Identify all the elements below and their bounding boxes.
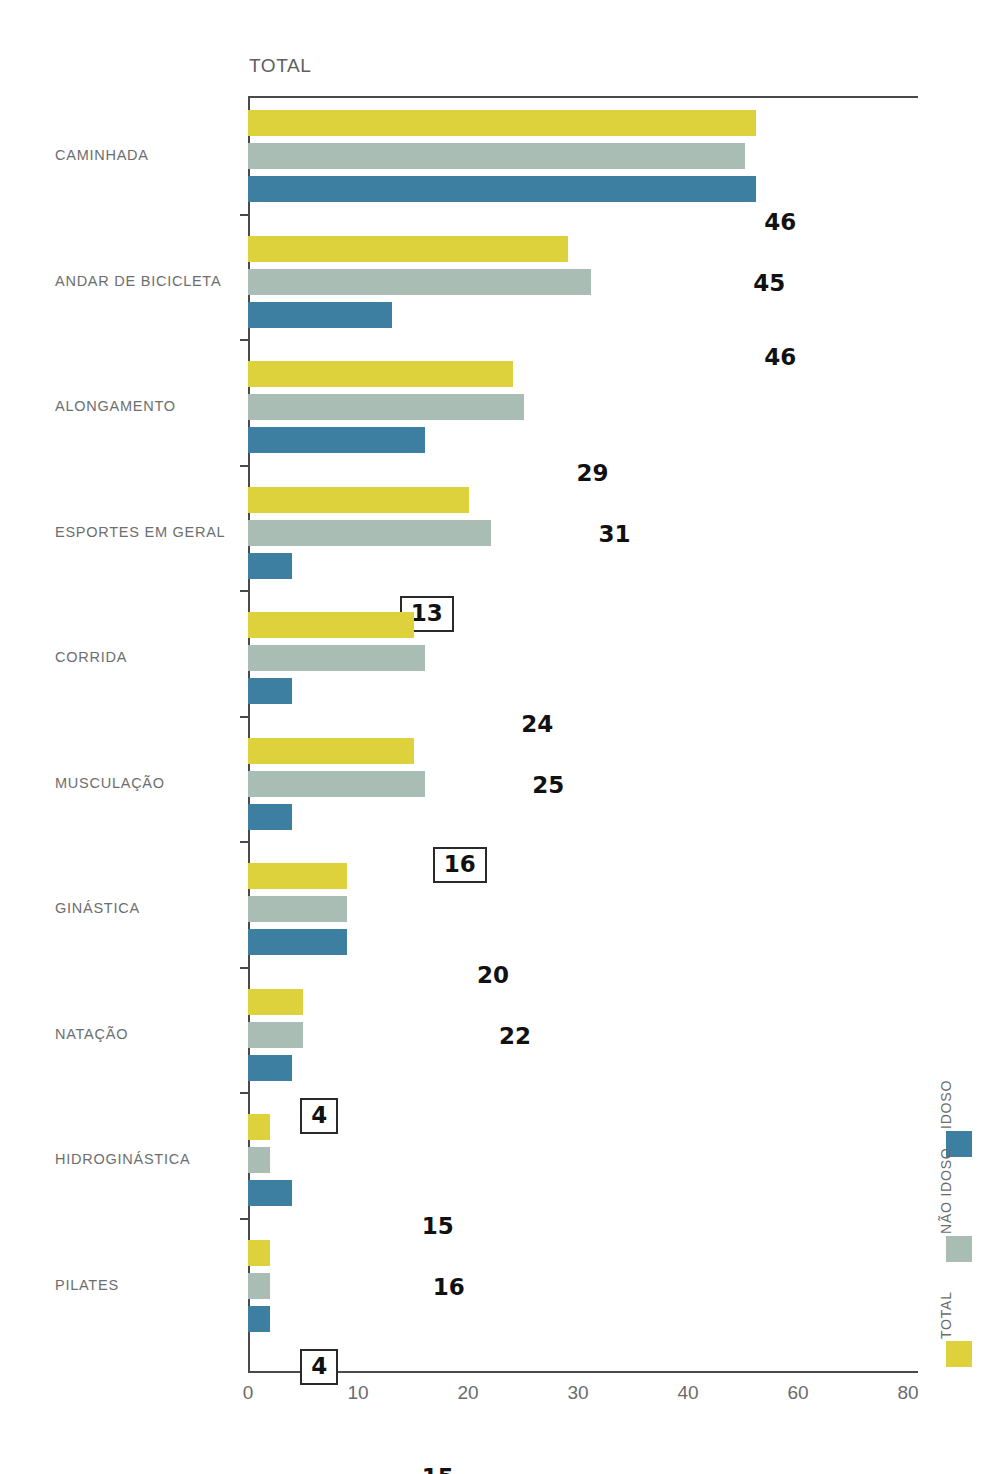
bar-chart: TOTAL CAMINHADAANDAR DE BICICLETAALONGAM… bbox=[0, 0, 988, 1474]
bar-value-label: 20 bbox=[477, 964, 509, 987]
bar-n-o-idoso bbox=[248, 143, 745, 169]
bar-value-label: 15 bbox=[422, 1215, 454, 1238]
bar-row: 4 bbox=[0, 553, 740, 579]
bar-total bbox=[248, 1114, 270, 1140]
bar-row: 16 bbox=[0, 771, 740, 797]
bar-n-o-idoso bbox=[248, 269, 591, 295]
bar-idoso bbox=[248, 1180, 292, 1206]
bar-row: 2 bbox=[0, 1147, 740, 1173]
bar-row: 4 bbox=[0, 1055, 740, 1081]
legend-label: IDOSO bbox=[938, 1080, 954, 1129]
y-axis-tick bbox=[240, 339, 250, 341]
bar-idoso bbox=[248, 1306, 270, 1332]
bar-n-o-idoso bbox=[248, 771, 425, 797]
bar-row: 9 bbox=[0, 896, 740, 922]
x-tick-label: 30 bbox=[567, 1382, 588, 1404]
bar-row: 4 bbox=[0, 804, 740, 830]
bar-n-o-idoso bbox=[248, 645, 425, 671]
bar-row: 5 bbox=[0, 989, 740, 1015]
bar-value-label: 24 bbox=[521, 713, 553, 736]
bar-total bbox=[248, 989, 303, 1015]
bar-row: 2 bbox=[0, 1240, 740, 1266]
bar-row: 5 bbox=[0, 1022, 740, 1048]
y-axis-tick bbox=[240, 716, 250, 718]
bar-row: 24 bbox=[0, 361, 740, 387]
chart-legend: IDOSONÃO IDOSOTOTAL bbox=[928, 1065, 988, 1365]
legend-swatch bbox=[946, 1341, 972, 1367]
x-tick-label: 20 bbox=[457, 1382, 478, 1404]
bar-value-label: 45 bbox=[753, 272, 785, 295]
bar-idoso bbox=[248, 553, 292, 579]
bar-row: 16 bbox=[0, 645, 740, 671]
bar-row: 45 bbox=[0, 143, 740, 169]
bar-row: 15 bbox=[0, 612, 740, 638]
bar-row: 46 bbox=[0, 176, 740, 202]
y-axis-tick bbox=[240, 1092, 250, 1094]
bar-n-o-idoso bbox=[248, 394, 524, 420]
bar-total bbox=[248, 236, 568, 262]
y-axis-tick bbox=[240, 590, 250, 592]
bar-n-o-idoso bbox=[248, 1147, 270, 1173]
bar-value-label: 29 bbox=[576, 462, 608, 485]
bar-idoso bbox=[248, 176, 756, 202]
y-axis-tick bbox=[240, 841, 250, 843]
legend-label: TOTAL bbox=[938, 1291, 954, 1339]
bar-value-label: 46 bbox=[764, 211, 796, 234]
legend-swatch bbox=[946, 1236, 972, 1262]
legend-label: NÃO IDOSO bbox=[938, 1147, 954, 1234]
bar-row: 13 bbox=[0, 302, 740, 328]
chart-title: TOTAL bbox=[249, 55, 311, 77]
bar-row: 20 bbox=[0, 487, 740, 513]
bar-row: 25 bbox=[0, 394, 740, 420]
bar-row: 9 bbox=[0, 863, 740, 889]
bar-total bbox=[248, 738, 414, 764]
bar-total bbox=[248, 110, 756, 136]
bar-row: 2 bbox=[0, 1273, 740, 1299]
bar-total bbox=[248, 1240, 270, 1266]
bar-row: 46 bbox=[0, 110, 740, 136]
y-axis-tick bbox=[240, 967, 250, 969]
bar-row: 16 bbox=[0, 427, 740, 453]
bar-idoso bbox=[248, 427, 425, 453]
x-tick-label: 60 bbox=[787, 1382, 808, 1404]
bar-row: 2 bbox=[0, 1114, 740, 1140]
bar-value-label: 15 bbox=[422, 1466, 454, 1474]
bar-total bbox=[248, 361, 513, 387]
bar-idoso bbox=[248, 302, 392, 328]
x-tick-label: 0 bbox=[243, 1382, 254, 1404]
bar-row: 4 bbox=[0, 678, 740, 704]
bar-total bbox=[248, 487, 469, 513]
bar-row: 22 bbox=[0, 520, 740, 546]
y-axis-tick bbox=[240, 1218, 250, 1220]
bar-value-label: 46 bbox=[764, 346, 796, 369]
x-axis-line bbox=[248, 1371, 918, 1373]
x-tick-label: 40 bbox=[677, 1382, 698, 1404]
legend-item[interactable]: IDOSO bbox=[928, 1065, 988, 1165]
bar-row: 31 bbox=[0, 269, 740, 295]
legend-item[interactable]: NÃO IDOSO bbox=[928, 1170, 988, 1270]
x-tick-label: 80 bbox=[897, 1382, 918, 1404]
bar-idoso bbox=[248, 929, 347, 955]
bar-idoso bbox=[248, 678, 292, 704]
bar-n-o-idoso bbox=[248, 520, 491, 546]
bar-n-o-idoso bbox=[248, 1273, 270, 1299]
bar-idoso bbox=[248, 1055, 292, 1081]
bar-row: 9 bbox=[0, 929, 740, 955]
y-axis-tick bbox=[240, 214, 250, 216]
bar-row: 29 bbox=[0, 236, 740, 262]
x-tick-label: 10 bbox=[347, 1382, 368, 1404]
bar-total bbox=[248, 863, 347, 889]
bar-row: 4 bbox=[0, 1180, 740, 1206]
bar-idoso bbox=[248, 804, 292, 830]
y-axis-tick bbox=[240, 465, 250, 467]
bar-total bbox=[248, 612, 414, 638]
legend-item[interactable]: TOTAL bbox=[928, 1275, 988, 1375]
bar-value-label: 4 bbox=[300, 1349, 338, 1385]
bar-n-o-idoso bbox=[248, 1022, 303, 1048]
bar-row: 15 bbox=[0, 738, 740, 764]
bar-n-o-idoso bbox=[248, 896, 347, 922]
bar-row: 2 bbox=[0, 1306, 740, 1332]
